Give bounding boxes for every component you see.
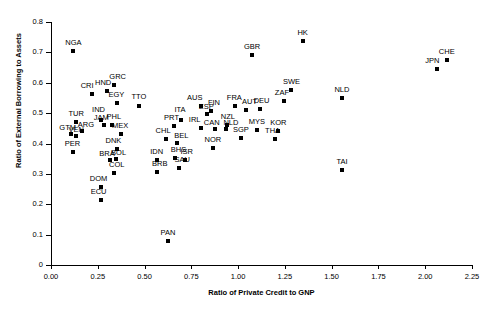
data-point <box>435 67 439 71</box>
data-point <box>155 158 159 162</box>
x-axis-title: Ratio of Private Credit to GNP <box>51 288 472 297</box>
data-point <box>115 101 119 105</box>
data-point <box>114 157 118 161</box>
data-point <box>273 137 277 141</box>
y-tick-label: 0.2 <box>33 198 43 209</box>
data-point <box>102 123 106 127</box>
data-point <box>173 156 177 160</box>
data-point <box>340 168 344 172</box>
data-point <box>183 158 187 162</box>
data-point <box>90 92 94 96</box>
y-tick-label: 0.6 <box>33 77 43 88</box>
data-point <box>213 127 217 131</box>
x-tick-label: 0.75 <box>184 271 199 282</box>
data-point <box>71 49 75 53</box>
data-point <box>172 124 176 128</box>
data-point <box>112 171 116 175</box>
y-tick-label: 0.3 <box>33 168 43 179</box>
y-axis-title: Ratio of External Borrowing to Assets <box>14 1 23 201</box>
data-point <box>250 53 254 57</box>
y-tick-label: 0.5 <box>33 107 43 118</box>
data-point <box>119 132 123 136</box>
x-tick: 0.50 <box>145 265 146 269</box>
x-tick: 1.75 <box>378 265 379 269</box>
data-point <box>69 132 73 136</box>
x-tick: 0.00 <box>51 265 52 269</box>
data-point <box>71 150 75 154</box>
data-point <box>166 239 170 243</box>
data-point <box>209 109 213 113</box>
data-point <box>99 118 103 122</box>
data-point <box>177 166 181 170</box>
x-tick: 0.25 <box>98 265 99 269</box>
scatter-chart-figure: 00.10.20.30.40.50.60.70.8 0.000.250.500.… <box>0 0 496 309</box>
data-point <box>205 112 209 116</box>
y-tick-label: 0.8 <box>33 16 43 27</box>
data-point <box>164 137 168 141</box>
x-tick-label: 0.25 <box>90 271 105 282</box>
x-tick: 1.00 <box>238 265 239 269</box>
data-point <box>289 88 293 92</box>
data-point <box>110 123 114 127</box>
x-tick: 1.25 <box>285 265 286 269</box>
data-point <box>179 118 183 122</box>
data-point <box>239 136 243 140</box>
x-tick-label: 2.00 <box>418 271 433 282</box>
data-point <box>108 158 112 162</box>
data-point <box>99 185 103 189</box>
data-point <box>276 129 280 133</box>
y-tick-label: 0.7 <box>33 46 43 57</box>
plot-area <box>51 22 472 265</box>
x-tick-label: 1.25 <box>278 271 293 282</box>
data-point <box>282 99 286 103</box>
y-tick-label: 0.4 <box>33 138 43 149</box>
x-tick-label: 2.25 <box>465 271 480 282</box>
data-point <box>199 104 203 108</box>
data-point <box>105 89 109 93</box>
data-point <box>74 134 78 138</box>
y-tick-label: 0.1 <box>33 229 43 240</box>
data-point <box>112 83 116 87</box>
x-tick-label: 0.50 <box>137 271 152 282</box>
x-tick: 2.25 <box>472 265 473 269</box>
data-point <box>340 96 344 100</box>
data-point <box>80 129 84 133</box>
x-tick: 0.75 <box>191 265 192 269</box>
data-point <box>155 170 159 174</box>
x-tick-label: 1.75 <box>371 271 386 282</box>
data-point <box>175 141 179 145</box>
data-point <box>445 58 449 62</box>
data-point <box>255 128 259 132</box>
x-tick: 2.00 <box>425 265 426 269</box>
data-point <box>137 104 141 108</box>
data-point <box>99 198 103 202</box>
x-tick-label: 1.00 <box>231 271 246 282</box>
x-tick-label: 1.50 <box>324 271 339 282</box>
data-point <box>199 126 203 130</box>
data-point <box>301 39 305 43</box>
data-point <box>244 108 248 112</box>
x-tick-label: 0.00 <box>44 271 59 282</box>
x-axis-line <box>51 265 472 266</box>
data-point <box>211 146 215 150</box>
x-tick: 1.50 <box>332 265 333 269</box>
data-point <box>115 147 119 151</box>
data-point <box>233 104 237 108</box>
data-point <box>258 107 262 111</box>
y-tick-label: 0 <box>39 259 43 270</box>
data-point <box>224 127 228 131</box>
data-point <box>74 120 78 124</box>
